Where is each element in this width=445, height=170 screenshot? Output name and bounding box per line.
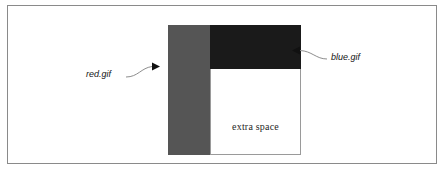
extra-space-box: extra space [210, 69, 301, 155]
figure-frame: extra space [7, 5, 437, 164]
diagram-screenshot: extra space red.gif blue.gif [0, 0, 445, 170]
image-stack: extra space [168, 25, 301, 155]
extra-space-label: extra space [211, 121, 300, 132]
blue-gif-block [210, 25, 301, 69]
red-gif-callout-label: red.gif [86, 69, 111, 79]
red-gif-block [168, 25, 210, 155]
blue-gif-callout-label: blue.gif [331, 52, 360, 62]
